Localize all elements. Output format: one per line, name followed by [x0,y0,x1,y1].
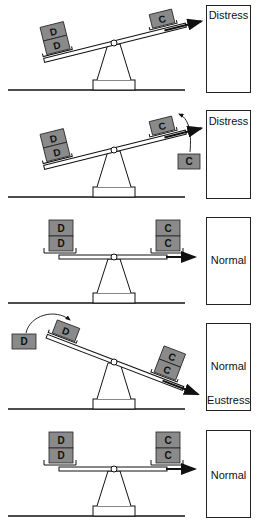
state-box-5: Normal [206,430,251,518]
arrow-icon [163,381,198,395]
state-label-eustress: Eustress [207,394,250,406]
svg-text:C: C [164,450,171,461]
fulcrum [97,44,131,80]
panel-3: D D C C Normal [0,205,258,310]
pivot [111,40,117,46]
svg-text:C: C [185,156,192,167]
state-box-4: Normal Eustress [206,323,251,411]
state-box-2: Distress [206,110,251,199]
state-label-distress: Distress [207,9,250,21]
panel-4: D C C D Normal Eustress [0,310,258,420]
pivot [111,254,117,260]
svg-text:C: C [164,223,171,234]
panel-5: D D C C Normal [0,415,258,526]
state-label-distress: Distress [207,115,250,127]
fulcrum-base [93,80,135,90]
svg-text:D: D [20,336,27,347]
panel-2: D D C C Distress [0,100,258,210]
svg-text:C: C [164,238,171,249]
fulcrum [97,259,131,293]
state-box-3: Normal [206,217,251,305]
fulcrum-base [93,293,135,303]
svg-text:D: D [57,238,64,249]
svg-text:D: D [57,450,64,461]
fulcrum-base [93,506,135,516]
state-label-normal: Normal [207,469,250,481]
svg-text:D: D [57,435,64,446]
fulcrum-base [93,187,135,197]
svg-text:D: D [57,223,64,234]
state-box-1: Distress [206,5,251,93]
pivot [111,466,117,472]
state-label-normal: Normal [207,360,250,372]
fulcrum-base [93,399,135,409]
fulcrum [97,471,131,506]
svg-text:C: C [164,435,171,446]
fulcrum [97,151,131,187]
panel-1: D D C Distress [0,0,258,100]
state-label-normal: Normal [207,254,250,266]
pivot [111,359,117,365]
pivot [111,147,117,153]
